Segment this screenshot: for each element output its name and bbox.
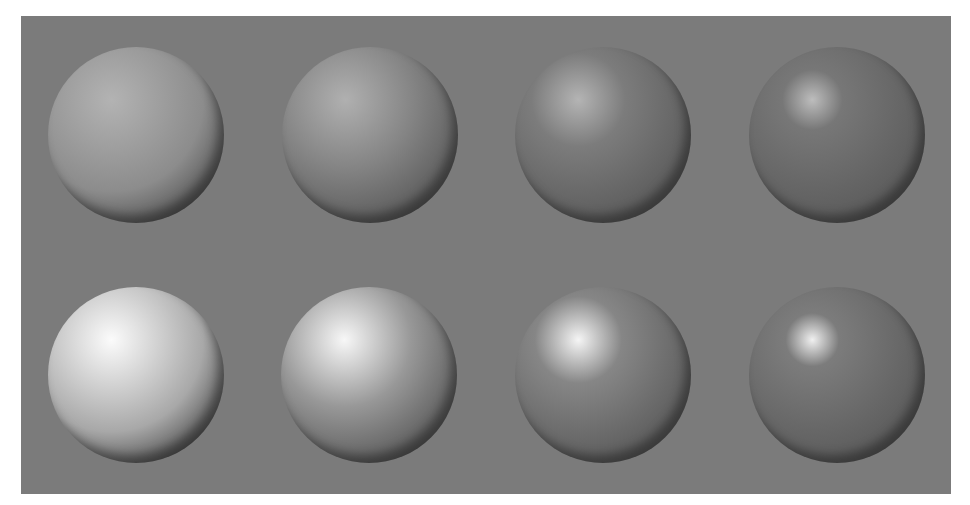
sphere-bright-2 [281, 287, 457, 463]
sphere-bright-3 [515, 287, 691, 463]
sphere-bright-4 [749, 287, 925, 463]
sphere-dim-1 [48, 47, 224, 223]
sphere-dim-3 [515, 47, 691, 223]
sphere-dim-4 [749, 47, 925, 223]
sphere-bright-1 [48, 287, 224, 463]
sphere-dim-2 [282, 47, 458, 223]
